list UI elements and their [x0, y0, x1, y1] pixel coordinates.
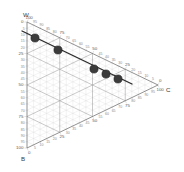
- tick-label: 45: [85, 121, 89, 125]
- tick-label: 80: [53, 30, 57, 34]
- vertex-label-b: B: [21, 155, 25, 162]
- tick-label: 100: [16, 145, 24, 150]
- tick-label: 45: [99, 52, 103, 56]
- tick-label: 20: [53, 137, 57, 141]
- data-point-marker: [102, 70, 110, 78]
- tick-label: 80: [131, 99, 135, 103]
- tick-label: 40: [79, 124, 83, 128]
- tick-label: 55: [99, 115, 103, 119]
- tick-label: 60: [21, 96, 25, 100]
- tick-label: 65: [21, 102, 25, 106]
- tick-label: 90: [144, 93, 148, 97]
- tick-label: 50: [19, 82, 24, 87]
- tick-label: 35: [112, 58, 116, 62]
- tick-label: 20: [131, 68, 135, 72]
- tick-label: 0: [159, 78, 162, 83]
- tick-label: 90: [40, 23, 44, 27]
- data-point-marker: [54, 46, 62, 54]
- tick-label: 25: [19, 51, 24, 56]
- axis-tick-marks: [24, 19, 159, 150]
- tick-label: 85: [138, 96, 142, 100]
- tick-label: 55: [21, 90, 25, 94]
- tick-label: 70: [21, 109, 25, 113]
- ternary-diagram-figure: 0510152025303540455055606570758085909510…: [0, 0, 184, 172]
- tick-label: 30: [21, 58, 25, 62]
- tick-label: 25: [125, 62, 130, 67]
- tick-label: 100: [156, 87, 164, 92]
- data-point-marker: [90, 65, 98, 73]
- tick-label: 60: [79, 42, 83, 46]
- tick-label: 65: [72, 39, 76, 43]
- tick-label: 5: [23, 27, 25, 31]
- tick-label: 95: [151, 90, 155, 94]
- tick-label: 80: [21, 121, 25, 125]
- tick-label: 15: [21, 39, 25, 43]
- tick-label: 30: [66, 131, 70, 135]
- tick-label: 50: [92, 46, 97, 51]
- tick-label: 75: [19, 114, 24, 119]
- tick-label: 70: [66, 36, 70, 40]
- tick-label: 10: [144, 74, 148, 78]
- tick-label: 50: [92, 118, 97, 123]
- tick-label: 0: [28, 150, 31, 155]
- tick-label: 65: [112, 109, 116, 113]
- tick-label: 10: [21, 33, 25, 37]
- tick-label: 20: [21, 46, 25, 50]
- tick-label: 70: [118, 105, 122, 109]
- tick-label: 10: [40, 143, 44, 147]
- tick-label: 90: [21, 134, 25, 138]
- tick-label: 75: [125, 103, 130, 108]
- vertex-label-w: W: [23, 11, 29, 18]
- data-point-marker: [31, 34, 39, 42]
- vertex-label-c: C: [166, 86, 171, 93]
- data-point-marker: [114, 75, 122, 83]
- tick-label: 5: [34, 146, 36, 150]
- tick-label: 75: [59, 30, 64, 35]
- tick-label: 85: [21, 128, 25, 132]
- tick-label: 15: [46, 140, 50, 144]
- tick-label: 35: [72, 127, 76, 131]
- tick-label: 45: [21, 77, 25, 81]
- tick-label: 15: [138, 71, 142, 75]
- tick-label: 85: [46, 27, 50, 31]
- tick-label: 35: [21, 65, 25, 69]
- tick-label: 95: [33, 20, 37, 24]
- tick-label: 5: [152, 77, 154, 81]
- tick-label: 0: [21, 19, 24, 24]
- tick-label: 95: [21, 140, 25, 144]
- tick-label: 55: [85, 45, 89, 49]
- tick-label: 25: [59, 134, 64, 139]
- ternary-plot-canvas: 0510152025303540455055606570758085909510…: [0, 0, 184, 172]
- tick-label: 40: [21, 71, 25, 75]
- tick-label: 60: [105, 112, 109, 116]
- tick-label: 30: [118, 61, 122, 65]
- tick-label: 40: [105, 55, 109, 59]
